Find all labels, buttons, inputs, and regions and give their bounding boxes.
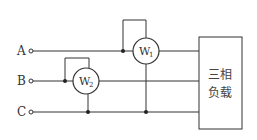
w1-voltage-lead: [144, 64, 148, 114]
terminal-c: C: [17, 105, 33, 119]
terminal-b-label: B: [17, 74, 26, 88]
terminal-a-label: A: [16, 44, 26, 58]
w1-subscript: 1: [149, 51, 153, 59]
w2-subscript: 2: [89, 81, 93, 89]
load-label-line2: 负载: [208, 86, 232, 100]
load-label-line1: 三相: [208, 68, 232, 82]
terminal-c-label: C: [17, 105, 26, 119]
three-phase-load: 三相 负载: [199, 37, 242, 129]
terminal-a: A: [16, 44, 33, 58]
terminal-b: B: [17, 74, 33, 88]
w2-voltage-lead: [86, 94, 90, 114]
wattmeter-w2: W 2: [73, 68, 99, 94]
circuit-diagram: W 1 W 2 A B C 三相 负载: [0, 0, 257, 140]
wattmeter-w1: W 1: [133, 38, 159, 64]
